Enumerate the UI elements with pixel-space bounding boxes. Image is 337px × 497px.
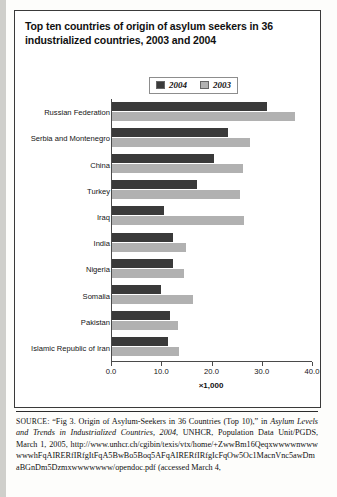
bar-2004 <box>112 337 168 346</box>
bar-2003 <box>112 190 240 199</box>
category-label: Russian Federation <box>21 108 110 117</box>
bar-2003 <box>112 216 244 225</box>
bar-2004 <box>112 180 197 189</box>
bar-2003 <box>112 138 250 147</box>
bar-2004 <box>112 285 161 294</box>
legend-swatch-light-icon <box>200 81 209 89</box>
legend-label-2004: 2004 <box>169 80 187 90</box>
category-label: Pakistan <box>21 317 110 326</box>
x-axis-tick-label: 0.0 <box>106 367 117 376</box>
x-axis-tick <box>212 362 213 366</box>
bar-2004 <box>112 128 228 137</box>
source-text-3: (accessed March 4, <box>156 463 221 472</box>
x-axis-tick-label: 10.0 <box>154 367 169 376</box>
page-left-edge <box>0 0 6 497</box>
source-note: SOURCE: “Fig 3. Origin of Asylum-Seekers… <box>16 416 318 473</box>
category-label: Nigeria <box>21 265 110 274</box>
category-label: Islamic Republic of Iran <box>21 343 110 352</box>
page-canvas: Top ten countries of origin of asylum se… <box>0 0 337 497</box>
x-axis-tick-label: 20.0 <box>204 367 219 376</box>
category-label: Somalia <box>21 291 110 300</box>
bar-2003 <box>112 112 295 121</box>
source-divider <box>16 411 318 412</box>
bar-2004 <box>112 206 164 215</box>
category-label: Serbia and Montenegro <box>21 134 110 143</box>
bar-2004 <box>112 259 173 268</box>
x-axis-tick <box>161 362 162 366</box>
bar-2004 <box>112 102 267 111</box>
bar-2004 <box>112 311 170 320</box>
figure-frame: Top ten countries of origin of asylum se… <box>14 10 321 408</box>
legend-item-2004: 2004 <box>156 80 187 90</box>
x-axis-tick-label: 30.0 <box>254 367 269 376</box>
x-axis-tick-label: 40.0 <box>305 367 320 376</box>
chart-legend: 2004 2003 <box>149 77 238 94</box>
bar-2003 <box>112 164 243 173</box>
chart-axes: ×1,000 0.010.020.030.040.0 <box>111 99 316 361</box>
x-axis-tick <box>262 362 263 366</box>
category-label: China <box>21 160 110 169</box>
bar-2004 <box>112 154 214 163</box>
category-axis-labels: Russian FederationSerbia and MontenegroC… <box>21 99 110 361</box>
x-axis-tick <box>111 362 112 366</box>
legend-item-2003: 2003 <box>200 80 231 90</box>
category-label: Iraq <box>21 212 110 221</box>
bar-2003 <box>112 295 193 304</box>
chart-plot-area: Russian FederationSerbia and MontenegroC… <box>15 99 322 399</box>
figure-title: Top ten countries of origin of asylum se… <box>25 19 305 47</box>
bar-2003 <box>112 269 184 278</box>
bar-2003 <box>112 347 179 356</box>
source-text-1: : “Fig 3. Origin of Asylum-Seekers in 36… <box>47 417 270 426</box>
category-label: Turkey <box>21 186 110 195</box>
category-label: India <box>21 239 110 248</box>
bar-2003 <box>112 321 178 330</box>
legend-label-2003: 2003 <box>213 80 231 90</box>
x-axis-tick <box>312 362 313 366</box>
x-axis-title: ×1,000 <box>199 381 224 390</box>
bar-2003 <box>112 243 186 252</box>
legend-swatch-dark-icon <box>156 81 165 89</box>
source-label: SOURCE <box>16 417 47 426</box>
bar-2004 <box>112 233 173 242</box>
